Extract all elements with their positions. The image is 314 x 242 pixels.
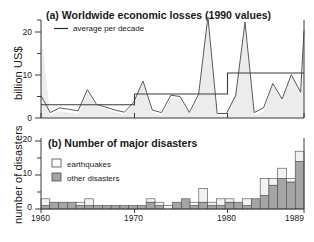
- panel-a-area: [41, 18, 304, 118]
- panel-a-plot: [0, 0, 314, 124]
- panel-b: (b) Number of major disasters number of …: [0, 124, 314, 242]
- panel-b-legend-swatch-other: [52, 173, 61, 181]
- panel-a: (a) Worldwide economic losses (1990 valu…: [0, 0, 314, 124]
- panel-b-plot: [0, 124, 314, 242]
- panel-b-bars: [41, 151, 304, 209]
- panel-b-legend-swatch-earthquakes: [52, 159, 61, 167]
- figure-root: (a) Worldwide economic losses (1990 valu…: [0, 0, 314, 242]
